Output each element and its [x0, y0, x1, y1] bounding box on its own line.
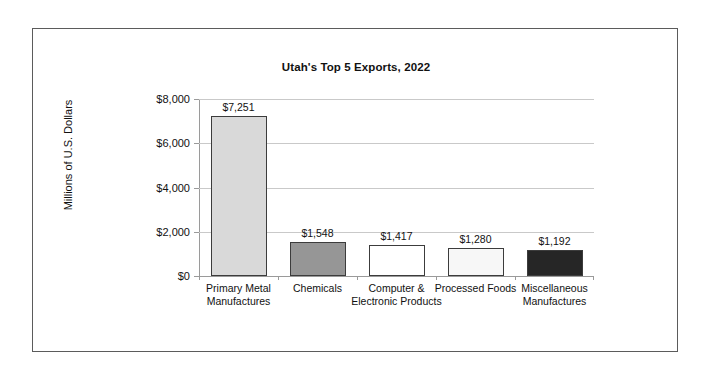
chart-title: Utah's Top 5 Exports, 2022 [33, 61, 679, 73]
plot-area: $0$2,000$4,000$6,000$8,000 $7,251Primary… [199, 99, 594, 276]
y-tick-label: $6,000 [156, 137, 190, 149]
x-tick-mark [593, 276, 594, 280]
bar-value-label: $1,548 [301, 227, 333, 239]
bar-series: $7,251Primary Metal Manufactures$1,548Ch… [199, 99, 594, 276]
bar-group[interactable]: $1,192Miscellaneous Manufactures [515, 99, 594, 276]
x-tick-mark [515, 276, 516, 280]
bar-value-label: $1,192 [538, 235, 570, 247]
y-tick-label: $2,000 [156, 226, 190, 238]
bar-value-label: $1,280 [459, 233, 491, 245]
x-tick-mark [278, 276, 279, 280]
x-axis-category-label: Miscellaneous Manufactures [509, 282, 601, 307]
bar[interactable] [527, 250, 583, 276]
bar[interactable] [211, 116, 267, 276]
gridline [199, 276, 594, 277]
chart-frame: Utah's Top 5 Exports, 2022 Millions of U… [32, 28, 678, 352]
bar-value-label: $1,417 [380, 230, 412, 242]
bar-value-label: $7,251 [222, 101, 254, 113]
y-tick-label: $0 [178, 270, 190, 282]
bar-group[interactable]: $1,417Computer & Electronic Products [357, 99, 436, 276]
y-tick-label: $4,000 [156, 182, 190, 194]
y-axis-label: Millions of U.S. Dollars [62, 65, 74, 245]
bar-group[interactable]: $1,280Processed Foods [436, 99, 515, 276]
x-tick-mark [436, 276, 437, 280]
y-tick-label: $8,000 [156, 93, 190, 105]
bar[interactable] [369, 245, 425, 276]
x-tick-mark [357, 276, 358, 280]
bar-group[interactable]: $7,251Primary Metal Manufactures [199, 99, 278, 276]
figure-root: Utah's Top 5 Exports, 2022 Millions of U… [0, 0, 712, 374]
bar-group[interactable]: $1,548Chemicals [278, 99, 357, 276]
bar[interactable] [290, 242, 346, 276]
bar[interactable] [448, 248, 504, 276]
x-tick-mark [199, 276, 200, 280]
